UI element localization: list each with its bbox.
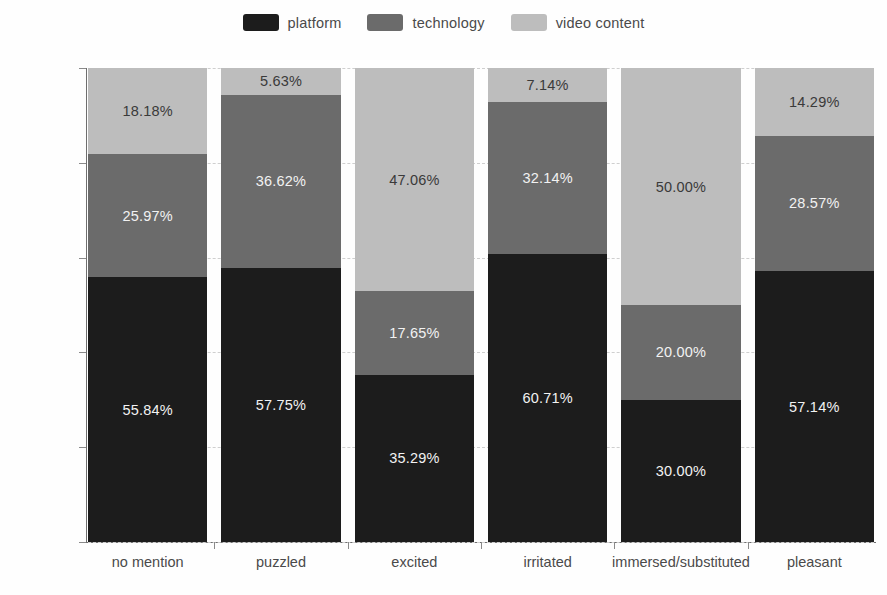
- bar-segment-platform[interactable]: 57.75%: [221, 268, 340, 542]
- bar-segment-platform[interactable]: 30.00%: [621, 400, 740, 542]
- bar-group[interactable]: 47.06%17.65%35.29%: [355, 68, 474, 542]
- bar-value-label: 25.97%: [122, 208, 172, 224]
- bar-value-label: 5.63%: [260, 73, 302, 89]
- bar-value-label: 7.14%: [527, 77, 569, 93]
- y-tick-mark: [79, 542, 86, 543]
- bar-segment-video-content[interactable]: 47.06%: [355, 68, 474, 291]
- y-axis-line: [86, 68, 87, 542]
- legend-swatch-icon: [511, 14, 547, 31]
- bar-segment-video-content[interactable]: 7.14%: [488, 68, 607, 102]
- bar-value-label: 57.75%: [256, 397, 306, 413]
- x-tick-mark: [481, 542, 482, 549]
- bar-value-label: 28.57%: [789, 195, 839, 211]
- bar-value-label: 32.14%: [522, 170, 572, 186]
- plot-area: 100%80%60%40%20%0% 18.18%25.97%55.84%5.6…: [88, 68, 874, 542]
- legend-label: platform: [288, 15, 342, 31]
- bar-segment-platform[interactable]: 57.14%: [755, 271, 874, 542]
- y-tick-mark: [79, 68, 86, 69]
- x-tick-mark: [348, 542, 349, 549]
- bar-value-label: 55.84%: [122, 402, 172, 418]
- bar-value-label: 20.00%: [656, 344, 706, 360]
- bar-group[interactable]: 14.29%28.57%57.14%: [755, 68, 874, 542]
- bar-value-label: 14.29%: [789, 94, 839, 110]
- bar-segment-video-content[interactable]: 18.18%: [88, 68, 207, 154]
- x-axis-label: no mention: [112, 554, 184, 570]
- y-tick-mark: [79, 352, 86, 353]
- legend-item-technology[interactable]: technology: [367, 14, 484, 31]
- bar-group[interactable]: 7.14%32.14%60.71%: [488, 68, 607, 542]
- bar-value-label: 30.00%: [656, 463, 706, 479]
- bar-value-label: 57.14%: [789, 399, 839, 415]
- x-axis-label: irritated: [523, 554, 571, 570]
- legend-swatch-icon: [243, 14, 279, 31]
- y-tick-mark: [79, 163, 86, 164]
- bar-series-container: 18.18%25.97%55.84%5.63%36.62%57.75%47.06…: [88, 68, 874, 542]
- bar-value-label: 47.06%: [389, 172, 439, 188]
- bar-value-label: 50.00%: [656, 179, 706, 195]
- x-tick-mark: [214, 542, 215, 549]
- bar-segment-platform[interactable]: 55.84%: [88, 277, 207, 542]
- bar-segment-technology[interactable]: 32.14%: [488, 102, 607, 254]
- y-tick-mark: [79, 447, 86, 448]
- bar-group[interactable]: 18.18%25.97%55.84%: [88, 68, 207, 542]
- stacked-bar-chart: platformtechnologyvideo content 100%80%6…: [0, 0, 887, 595]
- x-tick-mark: [748, 542, 749, 549]
- chart-legend: platformtechnologyvideo content: [0, 14, 887, 31]
- x-axis-label: excited: [391, 554, 437, 570]
- bar-segment-platform[interactable]: 60.71%: [488, 254, 607, 542]
- x-axis-label: pleasant: [787, 554, 842, 570]
- legend-item-platform[interactable]: platform: [243, 14, 342, 31]
- x-tick-mark: [614, 542, 615, 549]
- bar-value-label: 60.71%: [522, 390, 572, 406]
- bar-segment-technology[interactable]: 25.97%: [88, 154, 207, 277]
- legend-label: technology: [412, 15, 484, 31]
- bar-segment-technology[interactable]: 17.65%: [355, 291, 474, 375]
- legend-item-video-content[interactable]: video content: [511, 14, 645, 31]
- bar-segment-technology[interactable]: 36.62%: [221, 95, 340, 269]
- bar-segment-video-content[interactable]: 50.00%: [621, 68, 740, 305]
- bar-value-label: 17.65%: [389, 325, 439, 341]
- bar-value-label: 18.18%: [122, 103, 172, 119]
- bar-value-label: 36.62%: [256, 173, 306, 189]
- y-tick-mark: [79, 258, 86, 259]
- bar-group[interactable]: 5.63%36.62%57.75%: [221, 68, 340, 542]
- x-axis-label: immersed/substituted: [612, 554, 750, 570]
- legend-swatch-icon: [367, 14, 403, 31]
- bar-segment-video-content[interactable]: 14.29%: [755, 68, 874, 136]
- legend-label: video content: [556, 15, 645, 31]
- bar-value-label: 35.29%: [389, 450, 439, 466]
- bar-segment-platform[interactable]: 35.29%: [355, 375, 474, 542]
- bar-segment-video-content[interactable]: 5.63%: [221, 68, 340, 95]
- x-axis-label: puzzled: [256, 554, 306, 570]
- bar-group[interactable]: 50.00%20.00%30.00%: [621, 68, 740, 542]
- bar-segment-technology[interactable]: 20.00%: [621, 305, 740, 400]
- bar-segment-technology[interactable]: 28.57%: [755, 136, 874, 271]
